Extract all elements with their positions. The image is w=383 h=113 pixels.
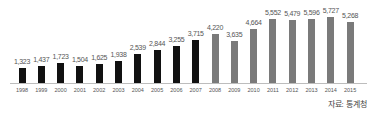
bar-1998 (19, 68, 26, 83)
value-label: 3,255 (161, 36, 191, 43)
value-label: 4,664 (239, 19, 269, 26)
x-axis-line (10, 83, 367, 84)
bar-2011 (269, 19, 276, 83)
bar-2000 (57, 63, 64, 83)
value-label: 1,938 (104, 51, 134, 58)
x-tick-label: 2015 (338, 87, 362, 93)
value-label: 4,220 (200, 24, 230, 31)
bar-2014 (327, 17, 334, 83)
value-label: 3,635 (219, 31, 249, 38)
bar-1999 (38, 66, 45, 83)
bar-2001 (76, 66, 83, 83)
bar-2012 (289, 20, 296, 83)
bar-2008 (212, 34, 219, 83)
bar-2004 (134, 54, 141, 83)
bar-2006 (173, 46, 180, 83)
bar-2005 (154, 50, 161, 83)
value-label: 3,715 (181, 30, 211, 37)
bar-2002 (96, 64, 103, 83)
bar-2007 (192, 40, 199, 83)
bar-chart: 자료: 통계청 1,32319981,43719991,72320001,504… (0, 0, 383, 113)
bar-2010 (250, 29, 257, 83)
value-label: 5,268 (335, 12, 365, 19)
bar-2003 (115, 61, 122, 83)
bar-2009 (231, 41, 238, 83)
bar-2013 (308, 19, 315, 83)
bar-2015 (347, 22, 354, 83)
source-note: 자료: 통계청 (328, 98, 367, 109)
